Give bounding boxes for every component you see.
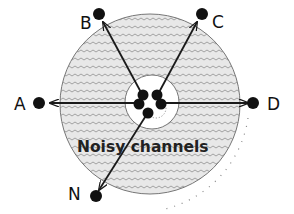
node-N	[90, 190, 102, 202]
label-C: C	[212, 12, 224, 32]
node-B	[93, 8, 105, 20]
label-B: B	[80, 13, 92, 33]
center-node-5	[143, 108, 154, 119]
center-node-4	[156, 99, 167, 110]
node-C	[196, 8, 208, 20]
node-D	[247, 97, 259, 109]
label-N: N	[68, 184, 81, 204]
node-A	[33, 97, 45, 109]
inner-circle	[125, 75, 179, 129]
noisy-channel-diagram: A B C D N Noisy channels	[0, 0, 294, 214]
center-node-3	[134, 99, 145, 110]
label-D: D	[267, 94, 280, 114]
label-A: A	[14, 94, 26, 114]
noisy-channels-label: Noisy channels	[77, 138, 208, 156]
